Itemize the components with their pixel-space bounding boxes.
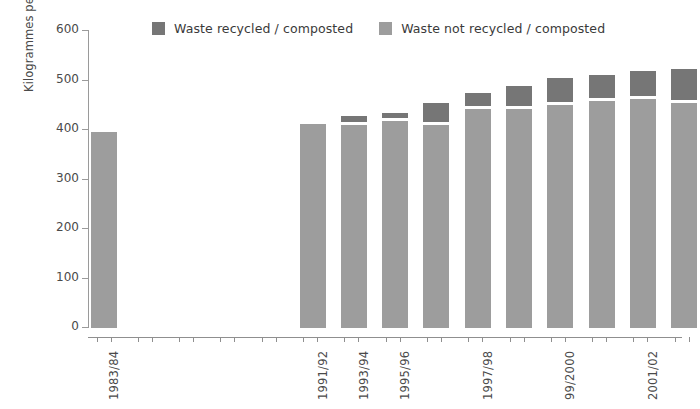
bar-segment-not-recycled: [547, 105, 573, 328]
bar-segment-recycled: [506, 86, 532, 106]
x-tick-mark: [441, 337, 442, 342]
y-tick-mark: [82, 30, 89, 31]
x-tick-mark: [220, 337, 221, 342]
bar-segment-not-recycled: [589, 101, 615, 328]
x-tick-label: 1995/96: [398, 351, 412, 400]
x-tick-label: 1993/94: [357, 351, 371, 400]
bar-1983-84[interactable]: [91, 132, 117, 328]
y-tick-label: 0: [71, 319, 79, 333]
x-tick-mark: [138, 337, 139, 342]
x-tick-mark: [193, 337, 194, 342]
x-tick-mark: [647, 337, 648, 342]
x-tick-mark: [551, 337, 552, 342]
x-tick-mark: [468, 337, 469, 342]
x-tick-mark: [675, 337, 676, 342]
y-tick-label: 500: [56, 72, 79, 86]
bar-1998-99[interactable]: [506, 86, 532, 328]
x-tick-mark: [400, 337, 401, 342]
x-tick-mark: [510, 337, 511, 342]
x-tick-mark: [234, 337, 235, 342]
bar-1991-92[interactable]: [300, 124, 326, 328]
bar-1996-97[interactable]: [423, 103, 449, 328]
y-tick-mark: [82, 129, 89, 130]
bar-segment-recycled: [630, 71, 656, 96]
bar-1995-96[interactable]: [382, 113, 408, 328]
x-tick-mark: [427, 337, 428, 342]
x-tick-mark: [689, 337, 690, 342]
y-tick-label: 400: [56, 121, 79, 135]
y-tick-mark: [82, 278, 89, 279]
x-tick-mark: [152, 337, 153, 342]
bar-segment-not-recycled: [671, 103, 697, 328]
bar-99-2000[interactable]: [547, 78, 573, 329]
y-tick-mark: [82, 327, 89, 328]
bar-segment-not-recycled: [91, 132, 117, 328]
y-tick-label: 100: [56, 270, 79, 284]
y-tick-mark: [82, 179, 89, 180]
x-tick-mark: [111, 337, 112, 342]
bar-segment-not-recycled: [423, 125, 449, 328]
bar-segment-recycled: [465, 93, 491, 106]
x-tick-mark: [482, 337, 483, 342]
bar-segment-not-recycled: [506, 109, 532, 328]
bar-segment-not-recycled: [382, 121, 408, 328]
x-tick-label: 1997/98: [481, 351, 495, 400]
bar-segment-not-recycled: [300, 124, 326, 328]
x-tick-mark: [179, 337, 180, 342]
plot-area: 6005004003002001000: [88, 28, 682, 328]
x-tick-mark: [303, 337, 304, 342]
x-tick-label: 1983/84: [107, 351, 121, 400]
x-tick-mark: [592, 337, 593, 342]
x-tick-label: 2001/02: [646, 351, 660, 400]
y-tick-label: 200: [56, 220, 79, 234]
bar-2002-03[interactable]: [671, 69, 697, 328]
y-axis-title: Kilogrammes per person per year: [22, 0, 36, 92]
bar-series-group: [89, 28, 682, 328]
bar-segment-not-recycled: [630, 99, 656, 328]
x-tick-mark: [262, 337, 263, 342]
bar-segment-recycled: [547, 78, 573, 103]
x-tick-mark: [606, 337, 607, 342]
bar-segment-not-recycled: [341, 125, 367, 328]
x-tick-mark: [97, 337, 98, 342]
x-tick-mark: [633, 337, 634, 342]
x-tick-label: 99/2000: [563, 351, 577, 400]
bar-2001-02[interactable]: [630, 71, 656, 328]
x-tick-mark: [317, 337, 318, 342]
x-tick-mark: [565, 337, 566, 342]
waste-per-person-stacked-bar-chart: Waste recycled / composted Waste not rec…: [0, 0, 700, 409]
bar-segment-recycled: [589, 75, 615, 98]
y-tick-label: 600: [56, 22, 79, 36]
bar-segment-recycled: [423, 103, 449, 122]
bar-1997-98[interactable]: [465, 93, 491, 328]
bar-2000-01[interactable]: [589, 75, 615, 328]
x-tick-mark: [386, 337, 387, 342]
bar-segment-not-recycled: [465, 109, 491, 328]
bar-1993-94[interactable]: [341, 116, 367, 328]
bar-segment-recycled: [671, 69, 697, 100]
x-tick-mark: [344, 337, 345, 342]
y-tick-mark: [82, 228, 89, 229]
y-tick-label: 300: [56, 171, 79, 185]
x-tick-mark: [358, 337, 359, 342]
y-tick-mark: [82, 80, 89, 81]
x-tick-mark: [524, 337, 525, 342]
x-tick-label: 1991/92: [316, 351, 330, 400]
x-tick-mark: [276, 337, 277, 342]
